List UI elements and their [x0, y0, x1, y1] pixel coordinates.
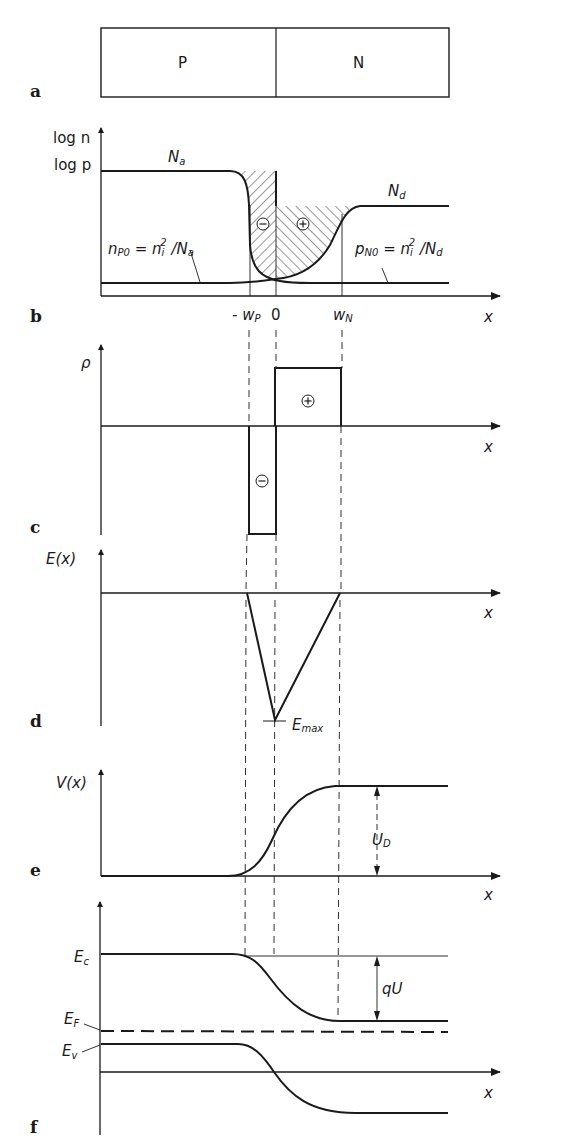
np0-label: nP0 = ni2 /Na	[108, 237, 194, 258]
panel-c: ρ x c	[30, 345, 500, 537]
qu-arrow-up-icon	[374, 956, 380, 966]
panel-f: Ec EF Ev qU x f	[30, 902, 500, 1137]
plus-charge-icon	[302, 395, 314, 407]
emax-label: Emax	[292, 716, 323, 734]
junction-box	[101, 28, 449, 97]
depletion-guides	[245, 330, 342, 1018]
na-label: Na	[168, 148, 185, 167]
ev-leader	[82, 1045, 100, 1052]
panel-a-label: a	[30, 81, 41, 101]
d-x-label: x	[483, 604, 493, 622]
panel-e-label: e	[30, 860, 41, 880]
panel-b: log n log p Na Nd nP0 = ni2 /Na pN0 = ni…	[30, 128, 500, 326]
e-x-label: x	[483, 886, 493, 904]
panel-f-label: f	[30, 1117, 39, 1137]
ud-label: UD	[372, 831, 391, 849]
ec-label: Ec	[74, 948, 89, 967]
ef-leader	[84, 1024, 100, 1030]
panel-d: E(x) Emax x d	[30, 550, 500, 734]
ev-label: Ev	[62, 1042, 78, 1061]
ex-label: E(x)	[46, 550, 76, 568]
c-x-label: x	[483, 438, 493, 456]
nd-label: Nd	[388, 182, 406, 201]
positive-charge-block	[275, 368, 341, 426]
region-p-label: P	[178, 54, 187, 72]
plus-charge-icon	[297, 218, 309, 230]
minus-charge-icon	[256, 475, 268, 487]
electric-field-curve	[247, 593, 340, 720]
qu-arrow-down-icon	[374, 1011, 380, 1021]
zero-tick: 0	[271, 306, 281, 324]
ud-arrow-up-icon	[374, 786, 380, 796]
minus-wp-tick: - wP	[232, 306, 261, 324]
panel-d-label: d	[30, 711, 42, 731]
wn-tick: wN	[333, 306, 353, 324]
log-p-label: log p	[54, 156, 91, 174]
pn0-leader	[382, 268, 388, 283]
panel-b-label: b	[30, 306, 42, 326]
vx-label: V(x)	[56, 774, 87, 792]
pn0-label: pN0 = ni2 /Nd	[354, 237, 443, 258]
pn-junction-figure: P N a log n log p Na	[0, 0, 573, 1146]
rho-label: ρ	[81, 354, 91, 372]
valence-band-curve	[101, 1044, 448, 1113]
log-n-label: log n	[53, 129, 90, 147]
negative-charge-block	[249, 426, 276, 534]
minus-charge-icon	[257, 218, 269, 230]
qu-label: qU	[382, 980, 403, 998]
panel-c-label: c	[30, 517, 40, 537]
ef-label: EF	[64, 1010, 79, 1029]
f-x-label: x	[483, 1084, 493, 1102]
panel-e: V(x) UD x e	[30, 770, 500, 904]
b-x-label: x	[483, 308, 493, 326]
panel-a: P N a	[30, 28, 449, 101]
ud-arrow-down-icon	[374, 866, 380, 876]
fermi-level-line	[101, 1031, 448, 1032]
region-n-label: N	[353, 54, 364, 72]
